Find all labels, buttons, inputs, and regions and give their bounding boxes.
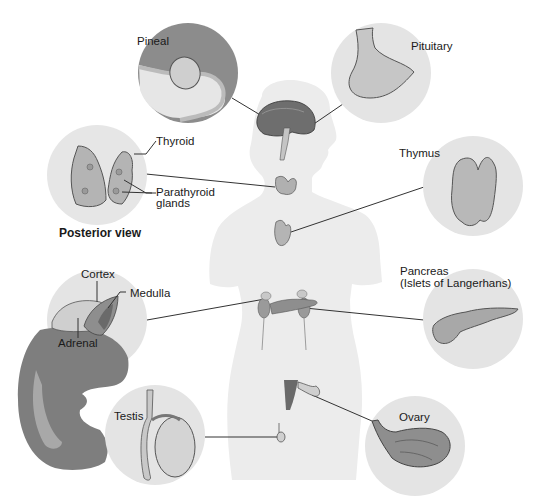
diagram-graphics <box>0 0 545 501</box>
label-pituitary: Pituitary <box>411 40 453 53</box>
label-pancreas-2: (Islets of Langerhans) <box>400 277 511 290</box>
label-thyroid: Thyroid <box>156 135 194 148</box>
testis-circle <box>105 385 205 485</box>
label-posterior-view: Posterior view <box>59 227 141 240</box>
label-parathyroid-2: glands <box>156 197 190 210</box>
label-adrenal: Adrenal <box>58 337 98 350</box>
label-medulla: Medulla <box>130 287 170 300</box>
label-pineal: Pineal <box>137 35 169 48</box>
pituitary-circle <box>331 23 431 123</box>
label-thymus: Thymus <box>399 147 440 160</box>
body-silhouette <box>209 80 382 480</box>
label-testis: Testis <box>114 410 143 423</box>
endocrine-diagram: Pineal Pituitary Thyroid Parathyroid gla… <box>0 0 545 501</box>
label-ovary: Ovary <box>399 411 430 424</box>
label-cortex: Cortex <box>81 268 115 281</box>
thyroid-circle <box>47 125 156 225</box>
